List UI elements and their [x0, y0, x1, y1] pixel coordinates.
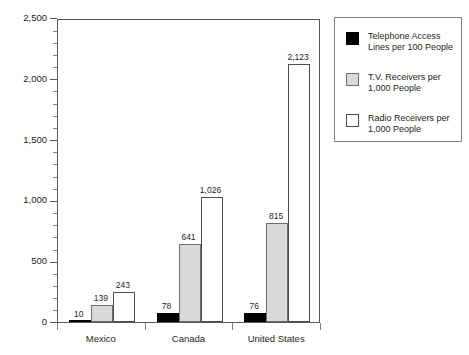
y-axis-major-tick	[50, 262, 57, 263]
legend-item-telephone[interactable]: Telephone Access Lines per 100 People	[346, 31, 453, 53]
legend-swatch-telephone-icon	[346, 32, 359, 45]
bar-radio-canada	[201, 197, 223, 322]
bar-value-label: 815	[259, 212, 293, 221]
legend-item-tv[interactable]: T.V. Receivers per 1,000 People	[346, 72, 441, 94]
plot-area	[57, 19, 320, 323]
y-axis-tick-label: 500	[0, 256, 47, 266]
legend-label: T.V. Receivers per 1,000 People	[368, 72, 441, 94]
bar-telephone-united-states	[244, 313, 266, 322]
x-axis-edge-tick	[320, 323, 321, 330]
bar-value-label: 243	[106, 281, 140, 290]
legend-swatch-radio-icon	[346, 114, 359, 127]
bar-value-label: 1,026	[194, 186, 228, 195]
x-axis-group-separator	[145, 323, 146, 330]
y-axis-major-tick	[50, 201, 57, 202]
legend-item-radio[interactable]: Radio Receivers per 1,000 People	[346, 113, 450, 135]
bar-radio-united-states	[288, 64, 310, 322]
y-axis-tick-label: 2,500	[0, 13, 47, 23]
bar-value-label: 641	[172, 233, 206, 242]
bar-value-label: 78	[150, 302, 184, 311]
y-axis-tick-label: 1,000	[0, 195, 47, 205]
x-axis-group-separator	[232, 323, 233, 330]
bar-telephone-canada	[157, 313, 179, 322]
x-axis-category-label: Canada	[145, 333, 233, 344]
x-axis-category-label: Mexico	[57, 333, 145, 344]
x-axis-edge-tick	[57, 323, 58, 330]
y-axis-major-tick	[50, 140, 57, 141]
legend-label: Telephone Access Lines per 100 People	[368, 31, 453, 53]
y-axis-major-tick	[50, 18, 57, 19]
x-axis-category-label: United States	[232, 333, 320, 344]
bar-value-label: 139	[84, 294, 118, 303]
chart-legend: Telephone Access Lines per 100 PeopleT.V…	[334, 17, 462, 142]
y-axis-tick-label: 1,500	[0, 135, 47, 145]
y-axis-tick-label: 2,000	[0, 74, 47, 84]
y-axis-major-tick	[50, 322, 57, 323]
y-axis-major-tick	[50, 79, 57, 80]
legend-swatch-tv-icon	[346, 73, 359, 86]
y-axis-tick-label: 0	[0, 317, 47, 327]
chart-root: 05001,0001,5002,0002,500 10139243Mexico7…	[0, 0, 469, 355]
bar-value-label: 10	[62, 310, 96, 319]
bar-value-label: 76	[237, 302, 271, 311]
bar-telephone-mexico	[69, 320, 91, 322]
legend-label: Radio Receivers per 1,000 People	[368, 113, 450, 135]
bar-value-label: 2,123	[281, 53, 315, 62]
